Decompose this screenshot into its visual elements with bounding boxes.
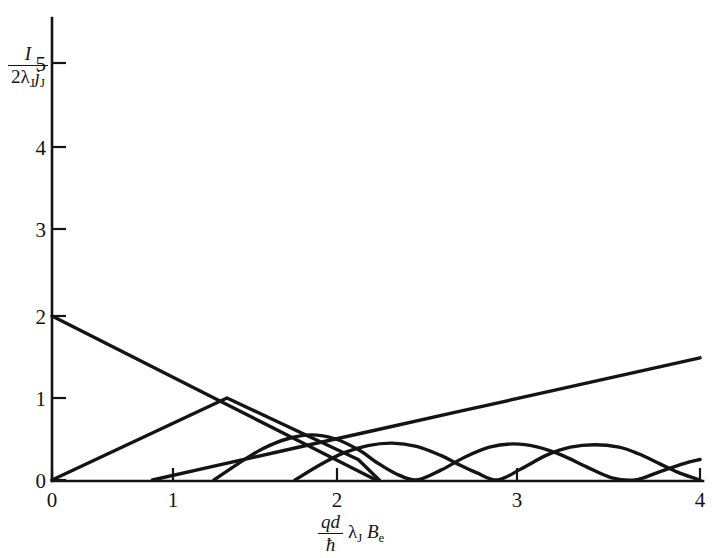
y-tick-label-1: 1 bbox=[36, 387, 47, 411]
curve-lobe-curve-b bbox=[295, 443, 700, 480]
x-tick-label-2: 2 bbox=[332, 488, 343, 512]
x-axis-label: qd ħ λJ Be bbox=[318, 512, 384, 555]
y-axis-ticks bbox=[52, 63, 66, 480]
y-tick-label-2: 2 bbox=[36, 305, 47, 329]
plot-canvas: 0 1 2 3 4 5 0 1 2 3 4 bbox=[0, 0, 715, 558]
x-axis-label-fraction: qd ħ bbox=[318, 512, 343, 555]
x-tick-label-4: 4 bbox=[695, 488, 706, 512]
data-curves-layer bbox=[52, 316, 700, 480]
x-axis-label-suffix: λJ Be bbox=[343, 522, 384, 545]
x-axis-label-numerator: qd bbox=[318, 512, 343, 534]
y-tick-label-0: 0 bbox=[36, 469, 47, 493]
x-tick-label-0: 0 bbox=[47, 488, 58, 512]
curve-lobe-curve-a bbox=[214, 435, 700, 480]
y-tick-label-3: 3 bbox=[36, 218, 47, 242]
y-axis-label-numerator: I bbox=[8, 44, 48, 66]
curve-branch-3-rising-line bbox=[152, 358, 700, 480]
x-tick-label-3: 3 bbox=[512, 488, 523, 512]
y-axis-label-denominator: 2λJjJ bbox=[8, 66, 48, 90]
y-tick-label-4: 4 bbox=[36, 136, 47, 160]
x-tick-label-1: 1 bbox=[168, 488, 179, 512]
y-axis-label-fraction: I 2λJjJ bbox=[8, 44, 48, 90]
figure-root: 0 1 2 3 4 5 0 1 2 3 4 I 2λJjJ qd ħ λJ Be bbox=[0, 0, 715, 558]
y-axis-label: I 2λJjJ bbox=[8, 44, 48, 90]
x-axis-label-denominator: ħ bbox=[318, 534, 343, 555]
